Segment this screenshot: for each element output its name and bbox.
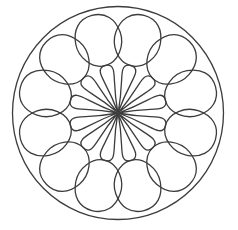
inner-petal: [81, 114, 117, 150]
outer-lobe: [147, 142, 197, 192]
mandala-canvas: [0, 0, 238, 230]
inner-petal: [119, 114, 155, 150]
outer-lobes-group: [20, 15, 217, 212]
inner-petals-group: [70, 65, 166, 161]
outer-lobe: [40, 35, 90, 85]
outer-circle: [13, 7, 224, 220]
outer-lobe: [147, 35, 197, 85]
inner-petal: [119, 76, 155, 112]
inner-petal: [81, 76, 117, 112]
outer-lobe: [40, 142, 90, 192]
